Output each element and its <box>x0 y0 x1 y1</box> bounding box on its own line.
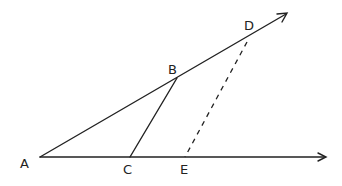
segment-BC <box>130 78 177 157</box>
label-C: C <box>123 162 132 177</box>
ray-AD <box>40 14 286 157</box>
label-D: D <box>244 18 254 33</box>
arrowhead-upright-icon <box>277 13 287 22</box>
segment-DE <box>185 42 247 157</box>
label-B: B <box>168 62 177 77</box>
label-A: A <box>20 156 29 171</box>
geometry-diagram: A B C D E <box>0 0 342 186</box>
label-E: E <box>180 162 188 177</box>
